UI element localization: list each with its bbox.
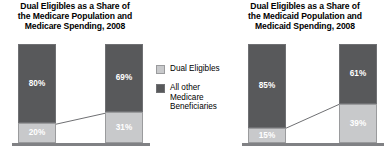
legend-other-line-3: Beneficiaries (170, 102, 217, 112)
medicaid-population-dual-segment[interactable]: 15% (248, 128, 286, 143)
medicaid-spending-dual-value: 39% (340, 120, 376, 128)
medicaid-spending-dual-segment[interactable]: 39% (339, 104, 377, 143)
medicaid-baseline (242, 143, 384, 146)
legend-swatch-dual-eligibles-icon (156, 65, 165, 74)
medicare-spending-dual-value: 31% (106, 124, 142, 132)
medicare-population-dual-value: 20% (19, 129, 55, 137)
medicare-population-other-value: 80% (19, 80, 55, 88)
legend-item-other-beneficiaries[interactable]: All other Medicare Beneficiaries (156, 83, 226, 112)
medicare-spending-other-value: 69% (106, 74, 142, 82)
medicare-population-dual-segment[interactable]: 20% (18, 123, 56, 143)
medicare-spending-dual-segment[interactable]: 31% (105, 112, 143, 143)
medicaid-spending-other-value: 61% (340, 70, 376, 78)
chart-figure: Dual Eligibles as a Share of the Medicar… (0, 0, 384, 158)
medicare-baseline (12, 143, 150, 146)
legend-swatch-other-beneficiaries-icon (156, 84, 165, 93)
chart-legend: Dual Eligibles All other Medicare Benefi… (156, 64, 226, 112)
legend-item-dual-eligibles[interactable]: Dual Eligibles (156, 64, 226, 74)
medicaid-bar-population[interactable]: 85% 15% (248, 44, 286, 143)
legend-other-line-2: Medicare (170, 93, 217, 103)
medicare-population-other-segment[interactable]: 80% (18, 44, 56, 123)
medicaid-population-other-segment[interactable]: 85% (248, 44, 286, 128)
legend-label-dual-eligibles: Dual Eligibles (170, 64, 220, 74)
legend-other-line-1: All other (170, 83, 217, 93)
medicaid-population-other-value: 85% (249, 82, 285, 90)
medicaid-population-dual-value: 15% (249, 132, 285, 140)
medicaid-bar-spending[interactable]: 61% 39% (339, 44, 377, 143)
medicaid-chart-panel: Dual Eligibles as a Share of the Medicai… (226, 0, 384, 158)
medicaid-spending-other-segment[interactable]: 61% (339, 44, 377, 104)
legend-label-other-beneficiaries: All other Medicare Beneficiaries (170, 83, 217, 112)
medicare-bar-spending[interactable]: 69% 31% (105, 44, 143, 143)
medicare-spending-other-segment[interactable]: 69% (105, 44, 143, 112)
medicaid-plot-area: 85% 15% 61% 39% (226, 0, 384, 158)
medicare-bar-population[interactable]: 80% 20% (18, 44, 56, 143)
